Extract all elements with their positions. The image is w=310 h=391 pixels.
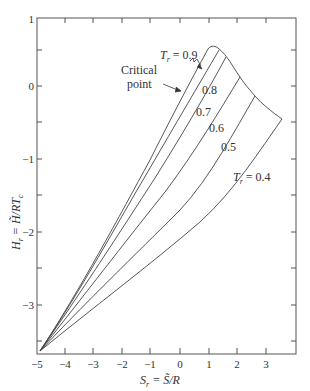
- label-tr-0.9: Tr = 0.9: [160, 48, 198, 64]
- x-tick-label: 3: [263, 358, 269, 370]
- label-tr-0.8: 0.8: [202, 83, 217, 97]
- x-tick-label: −2: [116, 358, 128, 370]
- x-tick-label: −3: [87, 358, 99, 370]
- x-tick-label: −4: [59, 358, 71, 370]
- y-tick-label: −2: [22, 226, 34, 238]
- y-tick-label: −1: [22, 153, 34, 165]
- y-axis-label: Hr = H̃/RTc: [9, 194, 25, 251]
- x-tick-label: 1: [206, 358, 212, 370]
- plot-frame: [37, 18, 296, 354]
- curve-tr-0.9: [40, 49, 208, 351]
- y-tick-label: 1: [29, 13, 35, 25]
- enthalpy-entropy-chart: −5 −4 −3 −2 −1 0 1 2 3 1 0 −1 −2 −3 Sr =…: [0, 0, 310, 391]
- x-tick-labels: −5 −4 −3 −2 −1 0 1 2 3: [31, 358, 269, 370]
- label-tr-0.6: 0.6: [209, 121, 224, 135]
- label-critical: Critical: [121, 63, 158, 77]
- curve-tr-0.8: [40, 50, 219, 351]
- label-tr-0.4: Tr = 0.4: [233, 170, 271, 186]
- y-ticks: [37, 50, 296, 341]
- label-tr-0.5: 0.5: [221, 140, 236, 154]
- curve-tr-0.4: [40, 119, 282, 351]
- y-tick-label: −3: [22, 299, 34, 311]
- y-tick-label: 0: [29, 80, 35, 92]
- critical-point-arrow: [163, 84, 181, 92]
- x-axis-label: Sr = S̃/R: [140, 373, 181, 389]
- x-tick-label: 0: [177, 358, 183, 370]
- x-tick-label: −5: [31, 358, 43, 370]
- isotherm-curves: [40, 46, 282, 351]
- x-tick-label: −1: [144, 358, 156, 370]
- x-ticks: [65, 18, 266, 354]
- x-tick-label: 2: [234, 358, 240, 370]
- label-point: point: [127, 77, 152, 91]
- saturation-dome: [208, 46, 282, 119]
- y-tick-labels: 1 0 −1 −2 −3: [22, 13, 34, 311]
- label-tr-0.7: 0.7: [196, 105, 211, 119]
